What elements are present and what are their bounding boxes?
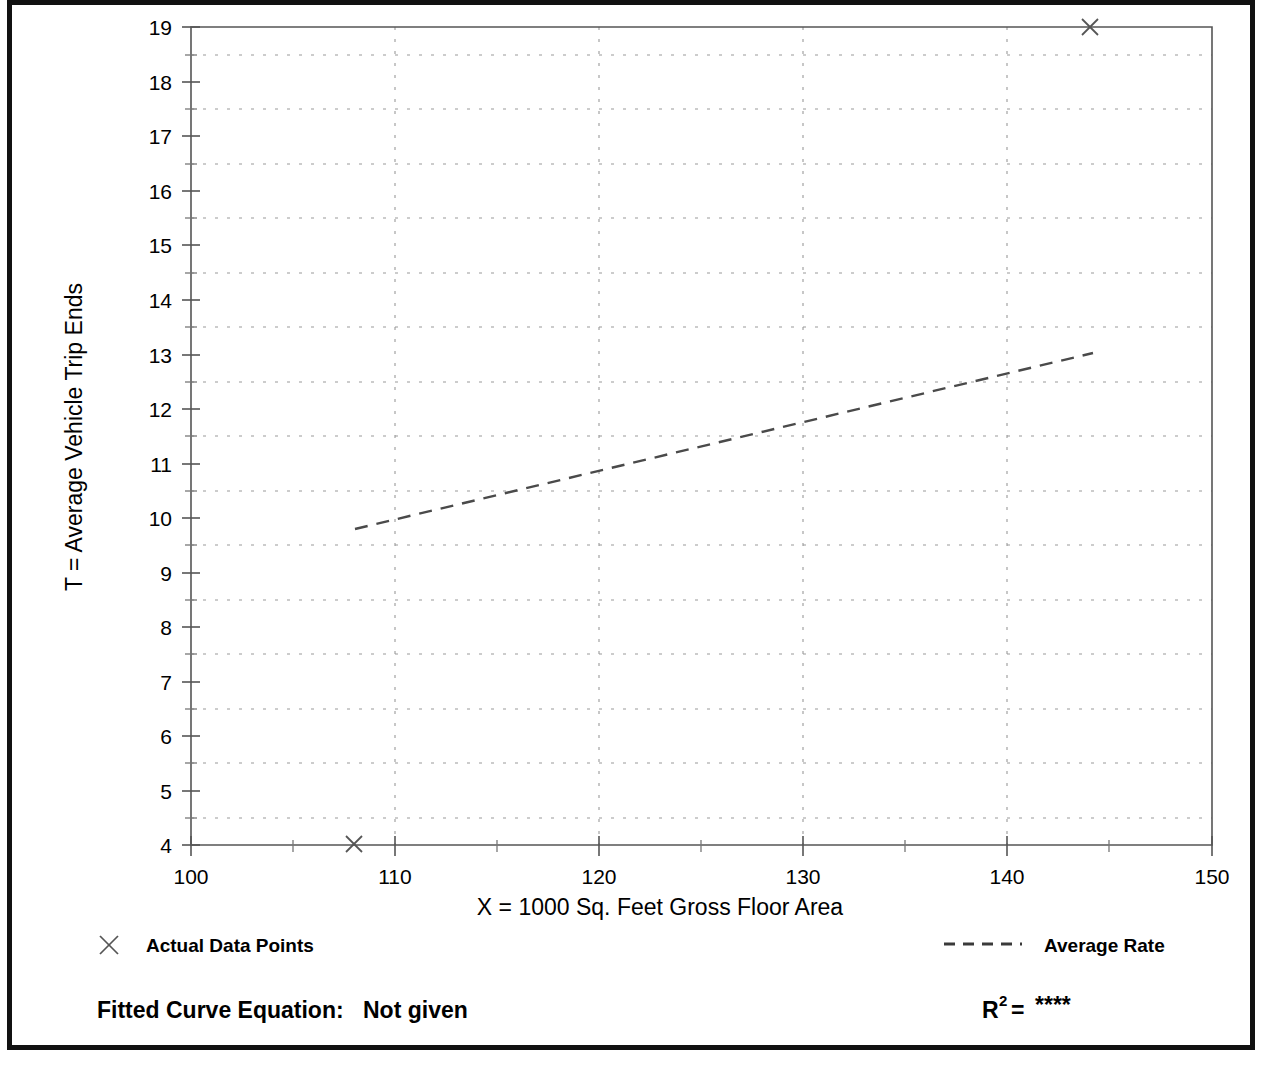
r-squared-equals: = — [1011, 997, 1024, 1023]
plot-frame — [191, 27, 1212, 845]
y-tick-label: 12 — [149, 398, 172, 421]
r-squared-value: **** — [1035, 992, 1071, 1018]
x-tick-labels: 100 110 120 130 140 150 — [173, 865, 1229, 888]
y-tick-label: 16 — [149, 180, 172, 203]
average-rate-trend-line — [355, 353, 1093, 529]
x-tick-label: 150 — [1194, 865, 1229, 888]
x-tick-label: 130 — [785, 865, 820, 888]
y-tick-label: 9 — [160, 562, 172, 585]
y-tick-label: 13 — [149, 344, 172, 367]
legend-actual-data-points: Actual Data Points — [100, 935, 314, 956]
legend-average-rate: Average Rate — [944, 935, 1165, 956]
x-axis-title: X = 1000 Sq. Feet Gross Floor Area — [477, 894, 843, 920]
x-tick-label: 140 — [989, 865, 1024, 888]
y-tick-label: 7 — [160, 671, 172, 694]
legend-average-rate-label: Average Rate — [1044, 935, 1165, 956]
y-tick-label: 6 — [160, 725, 172, 748]
fitted-curve-equation-label: Fitted Curve Equation: — [97, 997, 344, 1023]
x-tick-label: 110 — [378, 865, 411, 888]
x-marker-icon — [100, 936, 118, 954]
data-point-marker — [346, 836, 362, 852]
y-axis-title: T = Average Vehicle Trip Ends — [61, 283, 87, 591]
y-tick-label: 19 — [149, 16, 172, 39]
x-tick-label: 100 — [173, 865, 208, 888]
y-tick-label: 5 — [160, 780, 172, 803]
y-tick-label: 11 — [150, 453, 172, 476]
chart-svg: 4 5 6 7 8 9 10 11 12 13 14 15 16 17 18 1… — [0, 0, 1268, 1065]
horizontal-gridlines — [191, 55, 1212, 818]
x-tick-label: 120 — [581, 865, 616, 888]
y-tick-label: 8 — [160, 616, 172, 639]
r-squared-exponent: 2 — [999, 992, 1007, 1009]
y-tick-label: 17 — [149, 125, 172, 148]
plot-area-container: 4 5 6 7 8 9 10 11 12 13 14 15 16 17 18 1… — [0, 0, 1268, 1065]
y-tick-label: 10 — [149, 507, 172, 530]
y-tick-label: 15 — [149, 234, 172, 257]
y-tick-label: 14 — [149, 289, 173, 312]
r-squared-annotation: R 2 = **** — [982, 992, 1071, 1023]
figure-page: 4 5 6 7 8 9 10 11 12 13 14 15 16 17 18 1… — [0, 0, 1268, 1065]
y-tick-label: 18 — [149, 71, 172, 94]
y-tick-label: 4 — [160, 834, 172, 857]
y-tick-labels: 4 5 6 7 8 9 10 11 12 13 14 15 16 17 18 1… — [149, 16, 173, 857]
legend-actual-data-points-label: Actual Data Points — [146, 935, 314, 956]
vertical-gridlines — [395, 27, 1007, 845]
x-axis-ticks — [191, 836, 1212, 856]
fitted-curve-equation: Fitted Curve Equation: Not given — [97, 997, 468, 1023]
fitted-curve-equation-value: Not given — [363, 997, 468, 1023]
r-squared-base: R — [982, 997, 999, 1023]
